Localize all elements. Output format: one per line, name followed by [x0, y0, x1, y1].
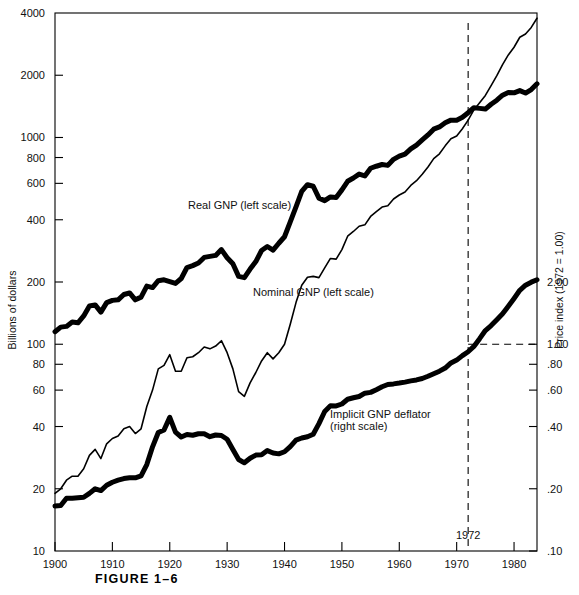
y2-tick-label: .20 — [547, 483, 562, 495]
x-tick-label: 1980 — [502, 558, 526, 570]
series-line — [55, 280, 537, 506]
figure-caption: FIGURE 1–6 — [95, 572, 179, 586]
y-tick-label: 2000 — [21, 69, 45, 81]
x-tick-label: 1910 — [100, 558, 124, 570]
marker-label-1972: 1972 — [456, 529, 480, 541]
x-tick-label: 1940 — [272, 558, 296, 570]
y2-tick-label: .40 — [547, 421, 562, 433]
y-tick-label: 600 — [27, 177, 45, 189]
y2-tick-label: .10 — [547, 545, 562, 557]
x-tick-label: 1960 — [387, 558, 411, 570]
y-tick-label: 1000 — [21, 131, 45, 143]
y-tick-label: 4000 — [21, 7, 45, 19]
x-tick-label: 1970 — [444, 558, 468, 570]
y-tick-label: 100 — [27, 338, 45, 350]
y2-tick-label: .60 — [547, 384, 562, 396]
x-tick-label: 1930 — [215, 558, 239, 570]
y-tick-label: 40 — [33, 421, 45, 433]
x-tick-label: 1920 — [158, 558, 182, 570]
figure-1-6: 1020406080100200400600800100020004000.10… — [0, 0, 579, 595]
y-tick-label: 200 — [27, 276, 45, 288]
y-tick-label: 10 — [33, 545, 45, 557]
y-tick-label: 800 — [27, 152, 45, 164]
series-label: (right scale) — [330, 420, 387, 432]
series-label: Nominal GNP (left scale) — [253, 286, 374, 298]
series-label: Implicit GNP deflator — [330, 408, 431, 420]
y-tick-label: 60 — [33, 384, 45, 396]
right-axis-title: Price index (1972 = 1.00) — [553, 231, 565, 349]
gnp-log-chart: 1020406080100200400600800100020004000.10… — [0, 0, 579, 595]
y-tick-label: 20 — [33, 483, 45, 495]
series-line — [55, 18, 537, 493]
plot-frame — [55, 13, 537, 551]
y-tick-label: 80 — [33, 358, 45, 370]
series-label: Real GNP (left scale) — [188, 199, 291, 211]
y-tick-label: 400 — [27, 214, 45, 226]
x-tick-label: 1950 — [330, 558, 354, 570]
y2-tick-label: .80 — [547, 358, 562, 370]
left-axis-title: Billions of dollars — [6, 271, 18, 350]
x-tick-label: 1900 — [43, 558, 67, 570]
